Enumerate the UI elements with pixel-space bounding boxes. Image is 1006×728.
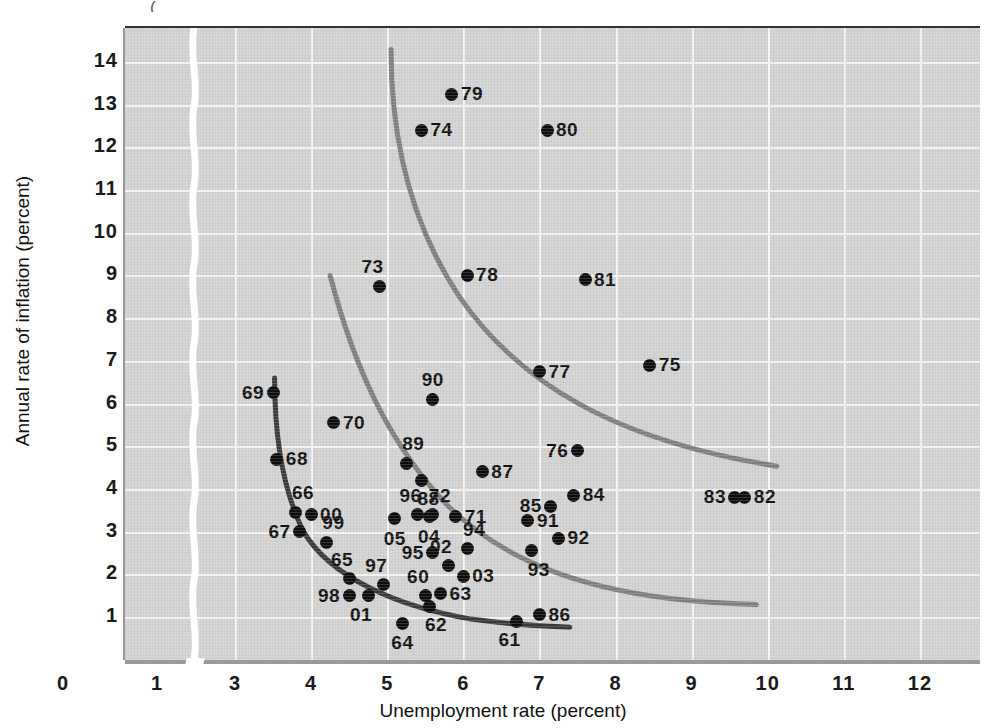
data-point	[423, 510, 436, 523]
y-tick-label: 11	[72, 177, 118, 200]
data-point-label: 86	[548, 604, 570, 626]
data-point-label: 92	[567, 527, 589, 549]
cropped-caption-fragment: (	[150, 0, 156, 12]
x-tick-label: 3	[205, 672, 265, 695]
data-point-label: 67	[269, 521, 291, 543]
y-tick-label: 6	[72, 391, 118, 414]
data-point	[579, 273, 592, 286]
data-point	[400, 457, 413, 470]
data-point-label: 87	[491, 461, 513, 483]
data-point	[461, 542, 474, 555]
x-tick-label: 7	[509, 672, 569, 695]
data-point-label: 01	[350, 604, 372, 626]
data-point	[343, 572, 356, 585]
x-tick-label: 0	[33, 672, 93, 695]
data-point-label: 68	[286, 448, 308, 470]
data-point-label: 76	[546, 440, 568, 462]
y-tick-label: 14	[72, 49, 118, 72]
data-point-label: 03	[472, 565, 494, 587]
data-point-label: 69	[242, 382, 264, 404]
data-point	[442, 559, 455, 572]
data-point-label: 63	[449, 583, 471, 605]
data-point-label: 04	[418, 526, 440, 548]
data-point-label: 96	[399, 485, 421, 507]
x-tick-label: 1	[127, 672, 187, 695]
x-axis-ticks: 013456789101112	[0, 672, 1006, 702]
data-point	[643, 359, 656, 372]
data-point-label: 89	[402, 433, 424, 455]
data-point-label: 80	[556, 119, 578, 141]
x-tick-label: 9	[662, 672, 722, 695]
data-point	[571, 444, 584, 457]
data-point-label: 74	[430, 119, 452, 141]
data-point-label: 66	[292, 482, 314, 504]
data-point	[270, 453, 283, 466]
data-point	[373, 280, 386, 293]
plot-area: 6061626364656667686970717273747576777879…	[125, 28, 980, 660]
data-point	[457, 570, 470, 583]
data-point	[396, 617, 409, 630]
data-point	[423, 600, 436, 613]
y-tick-label: 5	[72, 433, 118, 456]
data-point	[434, 587, 447, 600]
y-tick-label: 10	[72, 220, 118, 243]
data-point	[320, 536, 333, 549]
data-point	[552, 532, 565, 545]
data-point-label: 00	[320, 504, 342, 526]
x-tick-label: 11	[814, 672, 874, 695]
y-tick-label: 12	[72, 134, 118, 157]
data-point-label: 60	[407, 566, 429, 588]
y-axis-ticks: 1234567891011121314	[58, 0, 118, 728]
x-tick-label: 12	[890, 672, 950, 695]
y-tick-label: 8	[72, 305, 118, 328]
short-run-phillips-curve-1970s	[330, 276, 756, 605]
data-point-label: 65	[331, 549, 353, 571]
data-point-label: 81	[594, 269, 616, 291]
y-axis-title: Annual rate of inflation (percent)	[12, 76, 34, 546]
data-point-label: 75	[659, 354, 681, 376]
data-point-label: 90	[422, 369, 444, 391]
x-tick-label: 8	[586, 672, 646, 695]
data-point-label: 70	[343, 412, 365, 434]
axis-break-symbol	[183, 28, 205, 660]
data-point	[305, 508, 318, 521]
data-point	[567, 489, 580, 502]
data-point	[267, 386, 280, 399]
data-point-label: 84	[583, 484, 605, 506]
y-axis-title-wrap: Annual rate of inflation (percent)	[0, 0, 40, 728]
y-tick-label: 3	[72, 519, 118, 542]
data-point-label: 79	[461, 83, 483, 105]
y-tick-label: 1	[72, 604, 118, 627]
data-point-label: 62	[425, 614, 447, 636]
y-tick-label: 13	[72, 92, 118, 115]
data-point-label: 98	[318, 585, 340, 607]
phillips-curves	[125, 28, 980, 660]
data-point-label: 77	[548, 361, 570, 383]
y-tick-label: 9	[72, 262, 118, 285]
data-point-label: 78	[476, 264, 498, 286]
data-point-label: 91	[537, 510, 559, 532]
data-point-label: 73	[361, 256, 383, 278]
data-point-label: 82	[754, 486, 776, 508]
data-point-label: 61	[498, 629, 520, 651]
x-axis-title: Unemployment rate (percent)	[0, 700, 1006, 722]
y-tick-label: 2	[72, 561, 118, 584]
axis-break-tick	[185, 658, 205, 665]
x-tick-label: 10	[738, 672, 798, 695]
data-point	[541, 124, 554, 137]
y-tick-label: 7	[72, 348, 118, 371]
x-tick-label: 6	[433, 672, 493, 695]
data-point	[533, 365, 546, 378]
data-point-label: 93	[528, 559, 550, 581]
data-point	[343, 589, 356, 602]
data-point-label: 94	[463, 519, 485, 541]
data-point-label: 05	[384, 528, 406, 550]
data-point	[510, 615, 523, 628]
short-run-phillips-curve-1980s	[391, 49, 777, 466]
data-point-label: 97	[365, 555, 387, 577]
x-tick-label: 5	[357, 672, 417, 695]
data-point-label: 64	[391, 632, 413, 654]
data-point	[362, 589, 375, 602]
data-point	[461, 269, 474, 282]
data-point	[445, 88, 458, 101]
